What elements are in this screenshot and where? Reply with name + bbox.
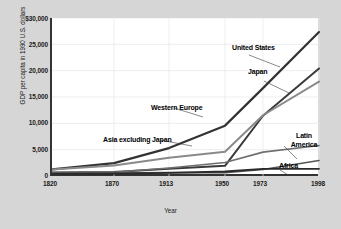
series-label-latin-america: Latin America	[284, 132, 324, 149]
y-tick-25000: 25,000	[29, 41, 48, 48]
series-lines	[52, 32, 319, 174]
series-label-africa: Africa	[279, 162, 298, 171]
y-tick-5000: 5,000	[32, 146, 48, 153]
y-tick-10000: 10,000	[29, 119, 48, 126]
x-axis-title: Year	[0, 207, 341, 214]
chart-lines	[52, 18, 320, 176]
y-tick-20000: 20,000	[29, 67, 48, 74]
series-label-japan: Japan	[248, 68, 267, 77]
series-label-western-europe: Western Europe	[151, 104, 202, 113]
series-label-united-states: United States	[232, 44, 275, 53]
y-tick-15000: 15,000	[29, 93, 48, 100]
plot-area	[50, 18, 318, 176]
x-tick-1950: 1950	[208, 180, 236, 187]
y-tick-30000: $30,000	[25, 15, 48, 22]
x-tick-1820: 1820	[36, 180, 64, 187]
y-axis-title: GDP per capita in 1990 U.S. dollars	[19, 0, 26, 126]
gridlines	[52, 18, 320, 176]
x-tick-1870: 1870	[98, 180, 126, 187]
x-tick-1998: 1998	[304, 180, 332, 187]
x-tick-1913: 1913	[152, 180, 180, 187]
x-tick-1973: 1973	[246, 180, 274, 187]
chart-root: $30,000 25,000 20,000 15,000 10,000 5,00…	[0, 0, 341, 229]
y-tick-0: 0	[44, 172, 48, 179]
series-label-asia-excluding-japan: Asia excluding Japan	[103, 136, 172, 145]
